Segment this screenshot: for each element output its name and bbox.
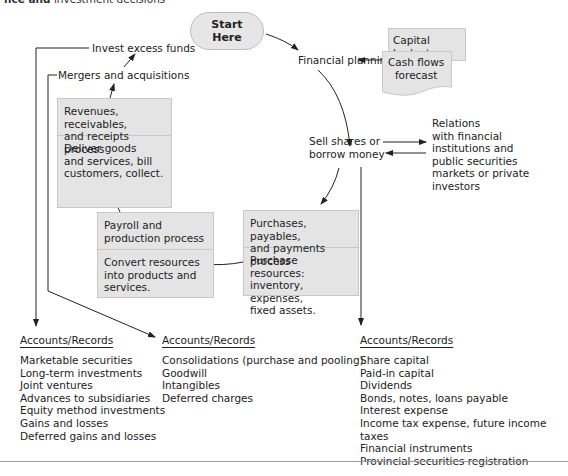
accounts-list: Marketable securities Long-term investme… — [20, 354, 165, 442]
figure-caption: nce and investment decisions — [4, 0, 165, 5]
account-item: Bonds, notes, loans payable — [360, 392, 568, 405]
account-item: Marketable securities — [20, 354, 165, 367]
sell-shares-node: Sell shares or borrow money — [309, 135, 385, 160]
account-item: Financial instruments — [360, 442, 568, 455]
financial-planning-node: Financial planning — [298, 54, 393, 67]
purchases-process-body: Purchase resources: inventory, expenses,… — [244, 247, 358, 321]
title-line: production process — [104, 232, 207, 245]
relations-line: institutions and — [432, 142, 529, 155]
account-item: Long-term investments — [20, 367, 165, 380]
title-line: Purchases, payables, — [250, 217, 352, 242]
accounts-list: Consolidations (purchase and pooling) Go… — [162, 354, 364, 404]
account-item: Interest expense — [360, 404, 568, 417]
relations-line: public securities — [432, 155, 529, 168]
accounts-heading: Accounts/Records — [162, 334, 364, 346]
account-item: Deferred charges — [162, 392, 364, 405]
relations-line: with financial — [432, 130, 529, 143]
invest-excess-funds-node: Invest excess funds — [92, 42, 195, 55]
body-line: and services, bill — [64, 155, 165, 168]
purchases-process-title: Purchases, payables, and payments proces… — [244, 211, 358, 247]
account-item: Deferred gains and losses — [20, 430, 165, 443]
accounts-heading: Accounts/Records — [360, 334, 568, 346]
body-line: inventory, expenses, — [250, 279, 352, 304]
relations-line: investors — [432, 180, 529, 193]
account-item: Joint ventures — [20, 379, 165, 392]
account-item: Dividends — [360, 379, 568, 392]
start-here-node: Start Here — [190, 12, 264, 50]
accounts-list: Share capital Paid-in capital Dividends … — [360, 354, 568, 467]
title-line: Payroll and — [104, 219, 207, 232]
revenues-process-box: Revenues, receivables, and receipts proc… — [57, 98, 172, 208]
sell-shares-line2: borrow money — [309, 148, 385, 161]
accounts-records-financing: Accounts/Records Share capital Paid-in c… — [360, 334, 568, 467]
sell-shares-line1: Sell shares or — [309, 135, 385, 148]
accounts-heading: Accounts/Records — [20, 334, 165, 346]
account-item: Income tax expense, future income taxes — [360, 417, 568, 442]
cash-flows-line2: forecast — [388, 69, 444, 82]
account-item: Goodwill — [162, 367, 364, 380]
accounts-records-investing: Accounts/Records Marketable securities L… — [20, 334, 165, 442]
relations-node: Relations with financial institutions an… — [432, 117, 529, 193]
account-item: Consolidations (purchase and pooling) — [162, 354, 364, 367]
body-line: Convert resources — [104, 256, 207, 269]
payroll-process-body: Convert resources into products and serv… — [98, 249, 213, 298]
relations-line: Relations — [432, 117, 529, 130]
mergers-acquisitions-node: Mergers and acquisitions — [58, 69, 189, 82]
account-item: Intangibles — [162, 379, 364, 392]
payroll-process-box: Payroll and production process Convert r… — [97, 212, 214, 298]
start-line2: Here — [211, 31, 242, 44]
body-line: Purchase resources: — [250, 254, 352, 279]
body-line: Deliver goods — [64, 142, 165, 155]
bottom-divider — [0, 461, 568, 462]
account-item: Equity method investments — [20, 404, 165, 417]
accounts-records-mergers: Accounts/Records Consolidations (purchas… — [162, 334, 364, 404]
caption-rest: investment decisions — [54, 0, 165, 5]
purchases-process-box: Purchases, payables, and payments proces… — [243, 210, 359, 296]
body-line: customers, collect. — [64, 167, 165, 180]
account-item: Paid-in capital — [360, 367, 568, 380]
relations-line: markets or private — [432, 167, 529, 180]
account-item: Share capital — [360, 354, 568, 367]
account-item: Advances to subsidiaries — [20, 392, 165, 405]
body-line: into products and — [104, 269, 207, 282]
body-line: fixed assets. — [250, 304, 352, 317]
title-line: Revenues, receivables, — [64, 105, 165, 130]
cash-flows-forecast-doc: Cash flows forecast — [382, 51, 452, 97]
start-line1: Start — [211, 18, 242, 31]
revenues-process-body: Deliver goods and services, bill custome… — [58, 135, 171, 184]
caption-bold: nce and — [4, 0, 51, 5]
revenues-process-title: Revenues, receivables, and receipts proc… — [58, 99, 171, 135]
body-line: services. — [104, 281, 207, 294]
payroll-process-title: Payroll and production process — [98, 213, 213, 249]
cash-flows-line1: Cash flows — [388, 56, 444, 69]
account-item: Gains and losses — [20, 417, 165, 430]
